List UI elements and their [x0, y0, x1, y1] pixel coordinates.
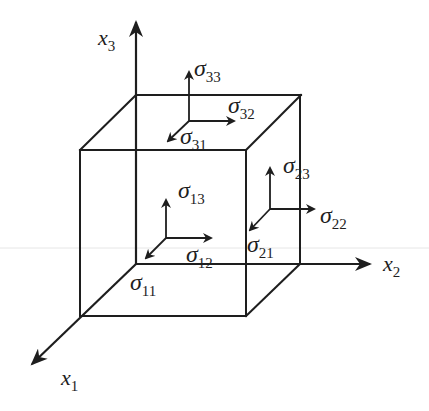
sigma23-label: σ23	[283, 153, 310, 177]
x3-axis-label: x3	[98, 27, 115, 49]
cube-edge	[246, 264, 300, 316]
sigma21-arrow	[250, 209, 270, 230]
cube-edge	[80, 95, 136, 150]
x1-axis-arrow	[32, 264, 136, 364]
sigma33-label: σ33	[194, 56, 221, 80]
sigma12-label: σ12	[186, 242, 213, 266]
sigma21-label: σ21	[247, 232, 274, 256]
sigma31-label: σ31	[180, 124, 207, 148]
sigma22-label: σ22	[320, 203, 347, 227]
sigma13-label: σ13	[178, 178, 205, 202]
x1-axis-label: x1	[61, 367, 78, 389]
sigma32-label: σ32	[228, 93, 255, 117]
sigma11-label: σ11	[130, 270, 156, 294]
x2-axis-label: x2	[383, 253, 400, 275]
